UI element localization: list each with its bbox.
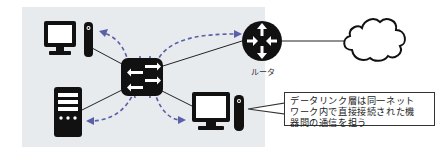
arrowhead-pc1-icon bbox=[99, 29, 108, 37]
callout-line-2: ワーク内で直接接続された機 bbox=[290, 106, 430, 117]
link-pc2-switch bbox=[160, 90, 192, 106]
cloud-icon bbox=[344, 19, 405, 61]
explanation-callout: データリンク層は同一ネット ワーク内で直接接続された機 器間の通信を担う bbox=[284, 92, 435, 126]
pc-icon bbox=[192, 92, 244, 131]
callout-pointer bbox=[248, 103, 287, 114]
pc-icon bbox=[44, 21, 93, 57]
router-label: ルータ bbox=[247, 66, 279, 77]
arrowhead-pc2-icon bbox=[178, 116, 186, 124]
link-server-switch bbox=[82, 90, 122, 110]
arrowhead-server-icon bbox=[86, 117, 94, 125]
arrowhead-router-icon bbox=[234, 30, 242, 38]
router-icon bbox=[242, 21, 282, 61]
link-pc1-switch bbox=[92, 48, 122, 64]
callout-line-1: データリンク層は同一ネット bbox=[290, 95, 430, 106]
switch-icon bbox=[121, 58, 163, 96]
callout-line-3: 器間の通信を担う bbox=[290, 117, 430, 128]
link-switch-router bbox=[163, 41, 242, 66]
server-icon bbox=[54, 87, 82, 137]
